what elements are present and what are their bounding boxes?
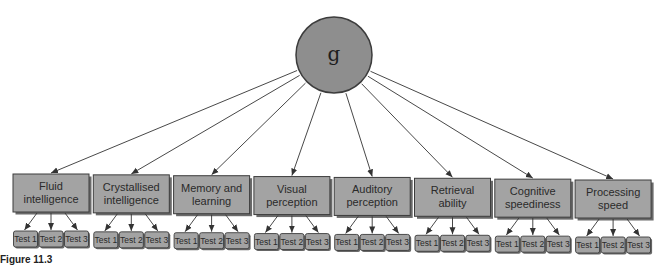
test-label: Test 3 (65, 234, 88, 244)
factor-label-line: perception (347, 196, 398, 208)
factor-visual-perception: VisualperceptionTest 1Test 2Test 3 (254, 177, 333, 252)
factor-crystallised-intelligence: CrystallisedintelligenceTest 1Test 2Test… (93, 175, 172, 250)
factor-label-line: Processing (586, 186, 640, 198)
factor-label-line: Visual (277, 183, 307, 195)
arrow-g-to-crystallised-intelligence (131, 75, 299, 173)
arrow-to-test (547, 218, 560, 235)
arrow-to-test (145, 214, 158, 231)
arrow-g-to-cognitive-speediness (368, 76, 533, 178)
arrow-to-test (506, 218, 519, 235)
arrow-to-test (25, 213, 38, 230)
factor-fluid-intelligence: FluidintelligenceTest 1Test 2Test 3 (13, 174, 92, 249)
factor-memory-and-learning: Memory andlearningTest 1Test 2Test 3 (174, 176, 253, 251)
factor-processing-speed: ProcessingspeedTest 1Test 2Test 3 (575, 180, 654, 255)
factor-label-line: ability (438, 197, 467, 209)
test-label: Test 1 (14, 234, 37, 244)
test-label: Test 2 (281, 237, 304, 247)
arrow-to-test (426, 217, 439, 234)
factor-label-line: Fluid (39, 180, 63, 192)
test-label: Test 1 (335, 237, 358, 247)
test-label: Test 1 (416, 238, 439, 248)
test-label: Test 3 (386, 237, 409, 247)
test-label: Test 3 (627, 240, 650, 250)
test-label: Test 2 (521, 239, 544, 249)
arrow-to-test (467, 217, 480, 234)
arrow-to-test (306, 216, 319, 233)
arrow-to-test (627, 219, 640, 236)
test-label: Test 3 (145, 235, 168, 245)
test-label: Test 2 (441, 238, 464, 248)
test-label: Test 2 (361, 237, 384, 247)
test-label: Test 1 (175, 236, 198, 246)
test-label: Test 2 (40, 234, 63, 244)
factor-label-line: Crystallised (103, 181, 160, 193)
arrow-to-test (386, 216, 399, 233)
factor-auditory-perception: AuditoryperceptionTest 1Test 2Test 3 (334, 177, 413, 252)
factor-retrieval-ability: RetrievalabilityTest 1Test 2Test 3 (415, 178, 494, 253)
test-label: Test 1 (576, 240, 599, 250)
test-label: Test 3 (547, 239, 570, 249)
factor-label-line: speediness (505, 198, 561, 210)
arrow-to-test (185, 215, 198, 232)
factors-layer: FluidintelligenceTest 1Test 2Test 3Cryst… (13, 174, 654, 255)
factor-label-line: perception (266, 196, 317, 208)
factor-label-line: learning (192, 195, 231, 207)
root-label: g (328, 42, 341, 66)
arrow-g-to-fluid-intelligence (51, 71, 297, 174)
test-label: Test 2 (200, 236, 223, 246)
factor-label-line: intelligence (104, 194, 159, 206)
arrow-g-to-retrieval-ability (362, 84, 453, 178)
factor-label-line: speed (598, 199, 628, 211)
factor-cognitive-speediness: CognitivespeedinessTest 1Test 2Test 3 (495, 179, 574, 254)
test-label: Test 1 (255, 237, 278, 247)
arrow-to-test (265, 216, 278, 233)
factor-label-line: intelligence (23, 193, 78, 205)
factor-label-line: Retrieval (431, 184, 474, 196)
test-label: Test 3 (226, 236, 249, 246)
test-label: Test 2 (602, 240, 625, 250)
arrow-to-test (105, 214, 118, 231)
arrow-g-to-auditory-perception (346, 93, 372, 176)
arrow-g-to-memory-and-learning (212, 83, 306, 175)
factor-label-line: Cognitive (510, 185, 556, 197)
test-label: Test 2 (120, 235, 143, 245)
arrow-g-to-processing-speed (371, 71, 614, 179)
factor-label-line: Memory and (181, 182, 242, 194)
arrow-to-test (346, 216, 359, 233)
arrow-to-test (226, 215, 239, 232)
arrow-to-test (587, 219, 600, 236)
test-label: Test 1 (94, 235, 117, 245)
test-label: Test 1 (496, 239, 519, 249)
root-node-g: g (296, 17, 372, 93)
arrow-to-test (65, 213, 78, 230)
test-label: Test 3 (467, 238, 490, 248)
test-label: Test 3 (306, 237, 329, 247)
figure-caption: Figure 11.3 (0, 254, 52, 265)
factor-label-line: Auditory (352, 183, 393, 195)
arrow-g-to-visual-perception (292, 93, 321, 176)
